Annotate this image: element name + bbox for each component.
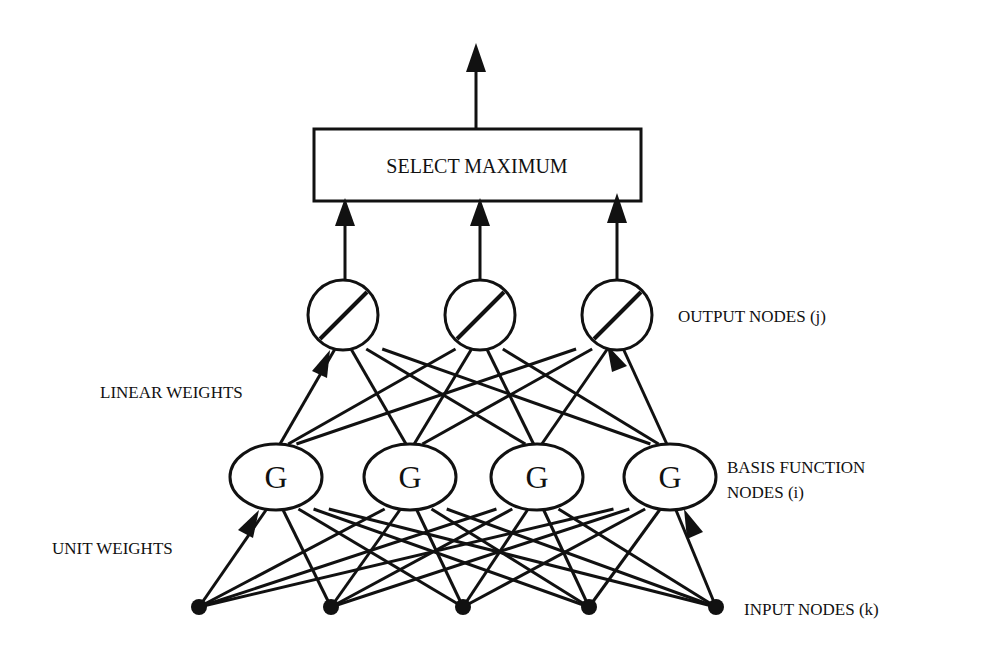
linear-weight-edge [623,349,666,444]
unit-weight-edge [329,509,716,607]
input-nodes [191,599,724,615]
rbf-network-diagram: SELECT MAXIMUM GGGG OUTPUT NODES (j) LIN… [0,0,989,664]
gaussian-symbol: G [264,459,287,495]
output-node [582,280,652,350]
unit-weight-edges [199,509,716,607]
output-nodes [308,280,652,350]
linear-weight-edge [296,349,576,444]
input-nodes-label: INPUT NODES (k) [744,600,879,619]
linear-weight-edges [280,349,667,444]
input-node [455,599,471,615]
input-node [708,599,724,615]
gaussian-symbol: G [658,459,681,495]
output-to-select-arrows [335,193,627,280]
input-node [191,599,207,615]
output-nodes-label: OUTPUT NODES (j) [678,307,826,326]
output-node [445,280,515,350]
input-node [323,599,339,615]
gaussian-symbol: G [525,459,548,495]
unit-weight-edge [589,509,660,607]
basis-function-node: G [491,444,583,510]
select-maximum-box: SELECT MAXIMUM [314,129,641,201]
final-output-arrow [466,43,486,128]
output-node [308,280,378,350]
gaussian-symbol: G [398,459,421,495]
linear-weight-edge [351,349,406,444]
basis-function-label-line1: BASIS FUNCTION [727,458,865,477]
input-node [581,599,597,615]
basis-function-node: G [364,444,456,510]
basis-function-label-line2: NODES (i) [727,483,804,502]
linear-weight-edge [542,349,608,444]
unit-weights-label: UNIT WEIGHTS [52,539,173,558]
linear-weight-edge [288,349,455,444]
select-maximum-label: SELECT MAXIMUM [386,155,568,177]
basis-function-nodes: GGGG [230,444,716,510]
basis-function-node: G [230,444,322,510]
basis-function-node: G [624,444,716,510]
linear-weights-label: LINEAR WEIGHTS [100,383,243,402]
